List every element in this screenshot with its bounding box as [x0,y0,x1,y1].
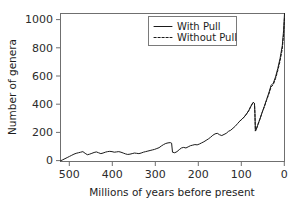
x-axis-tick-labels: 500 400 300 200 100 0 [59,168,288,181]
x-axis-title: Millions of years before present [89,186,254,198]
x-tick-label-200: 200 [188,168,209,181]
y-tick-label-0: 0 [46,154,53,167]
legend-label-without-pull: Without Pull [177,32,237,43]
series-line-without-pull [240,18,285,131]
x-axis-ticks [69,162,284,167]
y-axis-ticks [56,20,61,161]
legend-label-with-pull: With Pull [177,21,221,32]
y-tick-label-400: 400 [32,98,53,111]
figure-container: 1000 800 600 400 200 0 500 400 300 200 1… [0,0,300,208]
y-tick-label-800: 800 [32,42,53,55]
y-tick-label-1000: 1000 [25,13,53,26]
x-tick-label-100: 100 [231,168,252,181]
y-axis-tick-labels: 1000 800 600 400 200 0 [25,13,53,167]
y-tick-label-600: 600 [32,70,53,83]
x-tick-label-300: 300 [145,168,166,181]
x-tick-label-500: 500 [59,168,80,181]
x-tick-label-0: 0 [281,168,288,181]
y-tick-label-200: 200 [32,126,53,139]
chart-legend: With Pull Without Pull [149,17,238,46]
y-axis-title: Number of genera [6,39,18,135]
diversity-line-chart: 1000 800 600 400 200 0 500 400 300 200 1… [0,0,300,208]
x-tick-label-400: 400 [102,168,123,181]
